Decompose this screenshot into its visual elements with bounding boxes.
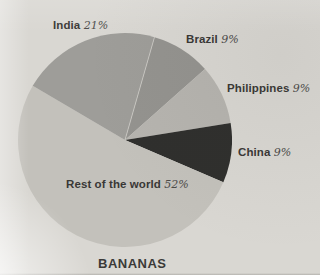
slice-label-percent: 9%	[274, 146, 291, 159]
slice-label-percent: 9%	[221, 33, 238, 46]
slice-label-percent: 21%	[84, 19, 108, 32]
chart-title: BANANAS	[98, 256, 167, 271]
slice-label-china: China 9%	[238, 146, 291, 159]
slice-label-philippines: Philippines 9%	[227, 82, 310, 95]
slice-label-rest-of-the-world: Rest of the world 52%	[66, 178, 189, 191]
slice-label-text: India	[53, 19, 80, 31]
slice-label-percent: 9%	[293, 82, 310, 95]
slice-label-text: Philippines	[227, 82, 289, 94]
pie-chart	[0, 0, 320, 275]
slice-label-text: Rest of the world	[66, 178, 161, 190]
chart-photo: India 21% Brazil 9% Philippines 9% China…	[0, 0, 320, 275]
slice-label-brazil: Brazil 9%	[186, 33, 239, 46]
slice-label-india: India 21%	[53, 19, 108, 32]
slice-label-percent: 52%	[164, 178, 188, 191]
slice-label-text: Brazil	[186, 33, 218, 45]
slice-label-text: China	[238, 146, 270, 158]
